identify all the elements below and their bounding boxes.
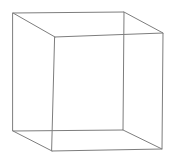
wireframe-cube-drawing <box>0 0 173 160</box>
figure-canvas <box>0 0 173 160</box>
